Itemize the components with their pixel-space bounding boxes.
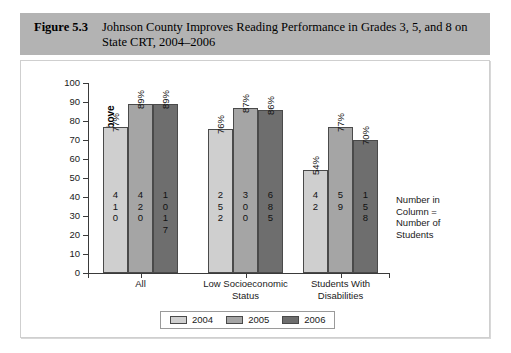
- category-label-line: Status: [191, 290, 301, 302]
- y-tick-mark: [83, 216, 88, 217]
- bar-student-count: 59: [329, 189, 352, 212]
- bar-percent-label: 89%: [161, 90, 170, 109]
- count-digit: 0: [234, 201, 257, 213]
- bar-2005-all: 420: [128, 104, 153, 273]
- bar-2006-all: 1017: [153, 104, 178, 273]
- count-digit: 4: [304, 189, 327, 201]
- count-digit: 2: [209, 189, 232, 201]
- x-category-label: Students WithDisabilities: [286, 278, 396, 301]
- y-tick-mark: [83, 197, 88, 198]
- legend-item-2004[interactable]: 2004: [170, 315, 213, 325]
- legend-item-2006[interactable]: 2006: [282, 315, 325, 325]
- count-digit: 5: [354, 201, 377, 213]
- y-tick-label: 0: [54, 268, 80, 277]
- x-category-label: All: [86, 278, 196, 290]
- count-digit: 1: [154, 212, 177, 224]
- count-digit: 0: [234, 212, 257, 224]
- bar-2006-students-with-disabilities: 158: [353, 140, 378, 273]
- chart-legend: 200420052006: [160, 311, 335, 329]
- count-digit: 2: [209, 212, 232, 224]
- count-digit: 2: [129, 201, 152, 213]
- count-digit: 9: [329, 201, 352, 213]
- category-label-line: Disabilities: [286, 290, 396, 302]
- count-digit: 4: [129, 189, 152, 201]
- count-digit: 0: [129, 212, 152, 224]
- count-digit: 0: [104, 212, 127, 224]
- legend-swatch-2006: [282, 316, 299, 324]
- count-digit: 5: [209, 201, 232, 213]
- category-label-line: Students With: [286, 278, 396, 290]
- bar-percent-label: 87%: [241, 94, 250, 113]
- y-tick-mark: [83, 254, 88, 255]
- y-tick-label: 50: [54, 173, 80, 182]
- bar-student-count: 300: [234, 189, 257, 224]
- count-digit: 7: [154, 224, 177, 236]
- bar-percent-label: 76%: [216, 115, 225, 134]
- category-label-line: All: [86, 278, 196, 290]
- y-tick-label: 70: [54, 135, 80, 144]
- bar-2004-students-with-disabilities: 42: [303, 170, 328, 273]
- bar-student-count: 42: [304, 189, 327, 212]
- bar-2006-low-socioeconomic-status: 685: [258, 110, 283, 273]
- y-tick-mark: [83, 83, 88, 84]
- legend-label-2004: 2004: [192, 315, 213, 325]
- bar-percent-label: 77%: [336, 113, 345, 132]
- annotation-line-3: Number of: [396, 217, 488, 229]
- legend-item-2005[interactable]: 2005: [226, 315, 269, 325]
- y-tick-label: 80: [54, 116, 80, 125]
- count-digit: 2: [304, 201, 327, 213]
- bar-percent-label: 54%: [311, 156, 320, 175]
- y-tick-mark: [83, 121, 88, 122]
- annotation-line-1: Number in: [396, 194, 488, 206]
- bar-student-count: 1017: [154, 189, 177, 235]
- x-category-label: Low SocioeconomicStatus: [191, 278, 301, 301]
- count-digit: 1: [104, 201, 127, 213]
- y-tick-mark: [83, 140, 88, 141]
- figure-title: Johnson County Improves Reading Performa…: [102, 20, 482, 50]
- bar-percent-label: 89%: [136, 90, 145, 109]
- annotation-line-4: Students: [396, 229, 488, 241]
- y-tick-label: 40: [54, 192, 80, 201]
- y-tick-label: 20: [54, 230, 80, 239]
- count-digit: 0: [154, 201, 177, 213]
- bar-2004-low-socioeconomic-status: 252: [208, 129, 233, 273]
- bar-student-count: 410: [104, 189, 127, 224]
- count-digit: 8: [354, 212, 377, 224]
- bar-2005-low-socioeconomic-status: 300: [233, 108, 258, 273]
- bar-2005-students-with-disabilities: 59: [328, 127, 353, 273]
- y-tick-label: 60: [54, 154, 80, 163]
- bar-student-count: 252: [209, 189, 232, 224]
- legend-swatch-2004: [170, 316, 187, 324]
- legend-label-2006: 2006: [304, 315, 325, 325]
- bar-percent-label: 77%: [111, 113, 120, 132]
- y-tick-label: 10: [54, 249, 80, 258]
- x-axis-line: [88, 273, 389, 274]
- count-digit: 5: [259, 212, 282, 224]
- y-tick-mark: [83, 235, 88, 236]
- count-digit: 4: [104, 189, 127, 201]
- count-digit: 1: [354, 189, 377, 201]
- y-tick-mark: [83, 159, 88, 160]
- legend-swatch-2005: [226, 316, 243, 324]
- y-axis-tick-labels: 0102030405060708090100: [50, 0, 80, 353]
- count-digit: 6: [259, 189, 282, 201]
- bar-student-count: 158: [354, 189, 377, 224]
- x-tick-mark: [389, 273, 390, 278]
- plot-area: 41077%42089%101789%25276%30087%68586%425…: [88, 83, 388, 273]
- bar-percent-label: 70%: [361, 126, 370, 145]
- legend-label-2005: 2005: [248, 315, 269, 325]
- count-digit: 8: [259, 201, 282, 213]
- bar-percent-label: 86%: [266, 96, 275, 115]
- bar-student-count: 685: [259, 189, 282, 224]
- figure-caption-bar: Figure 5.3 Johnson County Improves Readi…: [20, 13, 490, 55]
- category-label-line: Low Socioeconomic: [191, 278, 301, 290]
- y-tick-label: 100: [54, 78, 80, 87]
- count-digit: 3: [234, 189, 257, 201]
- y-tick-label: 90: [54, 97, 80, 106]
- bar-2004-all: 410: [103, 127, 128, 273]
- bar-student-count: 420: [129, 189, 152, 224]
- y-tick-mark: [83, 102, 88, 103]
- y-tick-label: 30: [54, 211, 80, 220]
- x-tick-mark: [88, 273, 89, 278]
- chart-annotation-note: Number in Column = Number of Students: [396, 194, 488, 240]
